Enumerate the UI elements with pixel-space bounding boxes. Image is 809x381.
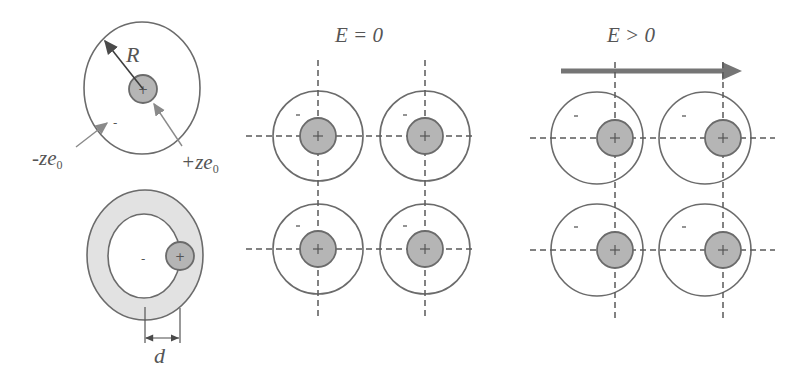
dielectric-polarization-diagram: + R - -ze0 +ze0 + - d E = 0	[0, 0, 809, 381]
lattice-with-field: E > 0	[530, 23, 775, 318]
electron-charge-label: -ze0	[32, 146, 63, 172]
polarized-atom: + - d	[87, 190, 203, 368]
isolated-atom: + R - -ze0 +ze0	[32, 22, 219, 176]
electron-sign: -	[113, 116, 117, 130]
nucleus-charge-label: +ze0	[181, 150, 219, 176]
nucleus-charge-arrow	[154, 104, 182, 146]
radius-label: R	[125, 42, 140, 67]
no-field-title: E = 0	[334, 23, 383, 47]
field-title: E > 0	[606, 23, 655, 47]
lattice-no-field: E = 0	[246, 23, 472, 318]
nucleus-sign: +	[175, 250, 185, 264]
displacement-label: d	[154, 343, 166, 368]
field-arrow-head-icon	[722, 62, 742, 80]
electron-sign: -	[141, 252, 145, 266]
